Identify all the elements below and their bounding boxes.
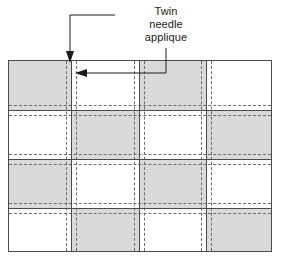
horizontal-stitch-1-below: [9, 115, 271, 116]
quilt-cell-r3-c2: [71, 159, 139, 208]
figure-root: Twin needle applique: [0, 0, 284, 260]
quilt-cell-r2-c1: [9, 110, 71, 159]
quilt-cell-r3-c1: [9, 159, 71, 208]
annotation-label-line-2: needle: [118, 18, 214, 31]
quilt-cell-r1-c2: [71, 61, 139, 110]
annotation-label: Twin needle applique: [118, 5, 214, 44]
vertical-stitch-1-right: [76, 61, 77, 251]
quilt-cell-r1-c3: [139, 61, 206, 110]
vertical-stitch-3-right: [211, 61, 212, 251]
annotation-label-line-1: Twin: [118, 5, 214, 18]
quilt-cell-r4-c3: [139, 208, 206, 252]
vertical-seam-1: [71, 61, 72, 251]
quilt-cell-r2-c4: [206, 110, 272, 159]
horizontal-stitch-3-above: [9, 203, 271, 204]
vertical-seam-3: [206, 61, 207, 251]
annotation-label-line-3: applique: [118, 31, 214, 44]
quilt-cell-r2-c2: [71, 110, 139, 159]
leader-line-down: [66, 15, 115, 63]
horizontal-seam-1: [9, 110, 271, 111]
vertical-stitch-1-left: [66, 61, 67, 251]
quilt-cell-r4-c1: [9, 208, 71, 252]
vertical-seam-2: [139, 61, 140, 251]
quilt-cell-r4-c2: [71, 208, 139, 252]
horizontal-stitch-1-above: [9, 105, 271, 106]
horizontal-stitch-2-below: [9, 164, 271, 165]
quilt-cell-r4-c4: [206, 208, 272, 252]
vertical-stitch-2-right: [144, 61, 145, 251]
quilt-cell-r3-c4: [206, 159, 272, 208]
horizontal-stitch-2-above: [9, 154, 271, 155]
quilt-panel: [8, 60, 272, 252]
quilt-cell-r1-c4: [206, 61, 272, 110]
quilt-cell-r1-c1: [9, 61, 71, 110]
horizontal-stitch-3-below: [9, 213, 271, 214]
horizontal-seam-3: [9, 208, 271, 209]
quilt-cell-r3-c3: [139, 159, 206, 208]
vertical-stitch-3-left: [201, 61, 202, 251]
vertical-stitch-2-left: [134, 61, 135, 251]
quilt-cell-r2-c3: [139, 110, 206, 159]
horizontal-seam-2: [9, 159, 271, 160]
